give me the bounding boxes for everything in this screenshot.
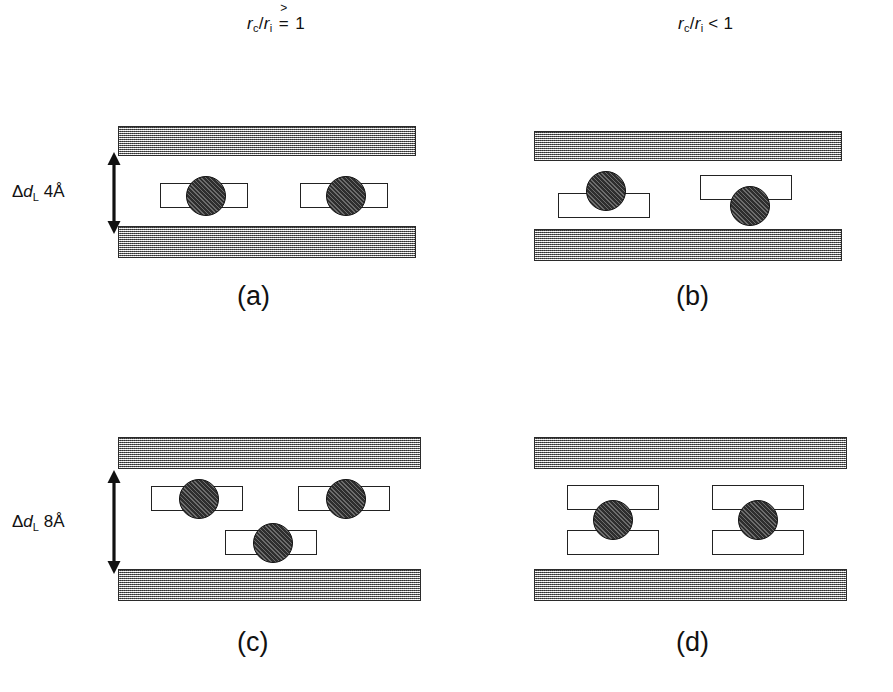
- lower-surface-slab-d: [534, 569, 847, 601]
- delta-symbol-bottom: Δ: [12, 512, 23, 531]
- header-value-right: 1: [723, 14, 733, 33]
- row-label-bottom: ΔdL 8Å: [12, 512, 64, 533]
- lower-surface-slab-a: [118, 226, 416, 258]
- relation-less-than: <: [708, 14, 718, 33]
- panel-label-b: (b): [676, 281, 709, 312]
- panel-label-c: (c): [237, 627, 268, 658]
- upper-surface-slab-a: [118, 126, 416, 156]
- lubricant-ball-d-1: [593, 500, 633, 540]
- panel-label-d: (d): [676, 627, 709, 658]
- column-header-right: rc/ri < 1: [678, 14, 733, 34]
- ratio-expression-right: rc/ri: [678, 14, 703, 33]
- lubricant-ball-c-3: [253, 523, 293, 563]
- delta-symbol-top: Δ: [12, 182, 23, 201]
- relation-greater-equal: >=: [277, 14, 290, 34]
- ratio-expression-left: rc/ri: [247, 14, 272, 33]
- figure-canvas: rc/ri >= 1 rc/ri < 1 ΔdL 4Å ΔdL 8Å (a): [0, 0, 893, 692]
- lower-surface-slab-b: [534, 229, 842, 261]
- row-label-top: ΔdL 4Å: [12, 182, 64, 203]
- panel-d: [534, 437, 849, 587]
- lubricant-ball-d-2: [738, 500, 778, 540]
- upper-surface-slab-c: [118, 437, 421, 469]
- lubricant-ball-b-1: [586, 171, 626, 211]
- subscript-l-top: L: [33, 191, 39, 203]
- upper-surface-slab-d: [534, 437, 847, 469]
- lubricant-ball-c-2: [326, 479, 366, 519]
- d-symbol-top: d: [23, 182, 32, 201]
- d-symbol-bottom: d: [23, 512, 32, 531]
- gap-value-bottom: 8Å: [44, 512, 65, 531]
- lubricant-ball-a-2: [326, 176, 366, 216]
- panel-b: [534, 131, 844, 271]
- panel-c: [118, 437, 423, 587]
- column-header-left: rc/ri >= 1: [247, 14, 305, 34]
- panel-a: [118, 126, 418, 266]
- subscript-l-bottom: L: [33, 521, 39, 533]
- panel-label-a: (a): [237, 281, 270, 312]
- gap-value-top: 4Å: [44, 182, 65, 201]
- lubricant-ball-c-1: [179, 479, 219, 519]
- lubricant-ball-a-1: [186, 176, 226, 216]
- upper-surface-slab-b: [534, 131, 842, 161]
- header-value-left: 1: [295, 14, 305, 33]
- lubricant-ball-b-2: [730, 186, 770, 226]
- lower-surface-slab-c: [118, 569, 421, 601]
